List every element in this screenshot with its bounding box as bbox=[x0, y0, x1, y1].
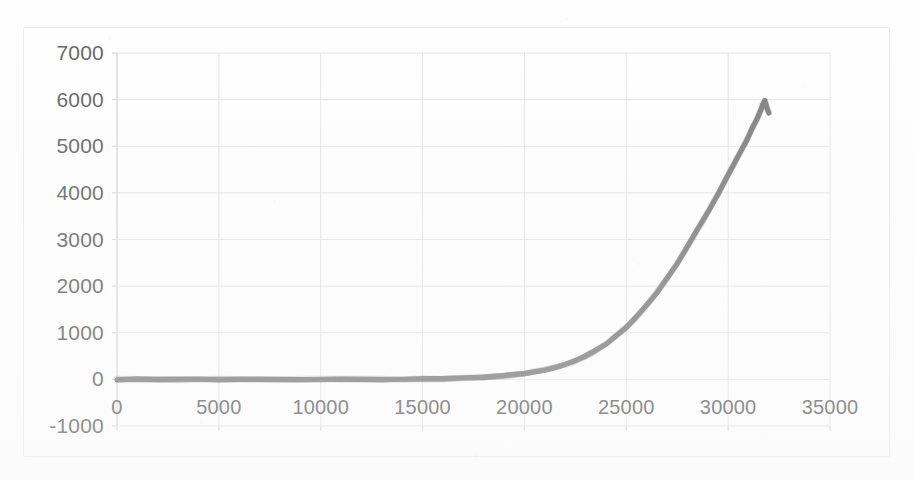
y-axis-tick-2000: 2000 bbox=[56, 275, 104, 296]
horizontal-gridlines bbox=[117, 53, 830, 426]
y-axis-tick-6000: 6000 bbox=[56, 89, 104, 110]
y-axis-tick-0: 0 bbox=[92, 368, 104, 389]
y-axis-tick-3000: 3000 bbox=[56, 229, 104, 250]
x-axis-tick-35000: 35000 bbox=[770, 397, 890, 417]
data-series-line bbox=[117, 100, 769, 381]
y-axis-tick--1000: -1000 bbox=[49, 415, 104, 436]
y-axis-tick-5000: 5000 bbox=[56, 135, 104, 156]
y-axis-tick-7000: 7000 bbox=[56, 42, 104, 63]
y-axis-tick-4000: 4000 bbox=[56, 182, 104, 203]
y-axis-tick-1000: 1000 bbox=[56, 322, 104, 343]
chart-container: 70006000500040003000200010000-1000 05000… bbox=[0, 0, 914, 480]
